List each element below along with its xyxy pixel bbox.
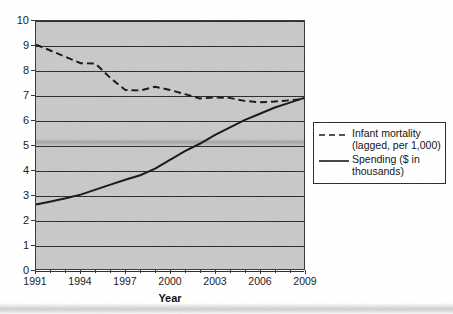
- x-axis-tick-mark: [35, 270, 36, 274]
- x-axis-tick-label: 2003: [198, 276, 232, 287]
- x-axis-tick-mark: [95, 270, 96, 273]
- series-plot: [36, 21, 304, 269]
- x-axis-tick-label: 2000: [153, 276, 187, 287]
- y-axis-tick-label: 2: [3, 215, 29, 226]
- y-axis-tick-label: 4: [3, 165, 29, 176]
- y-axis-tick-label: 7: [3, 90, 29, 101]
- series-line-spending: [36, 98, 304, 205]
- x-axis-tick-mark: [260, 270, 261, 274]
- y-axis-tick-label: 0: [3, 265, 29, 276]
- x-axis-tick-label: 1991: [18, 276, 52, 287]
- page-edge-smudge: [0, 303, 453, 314]
- x-axis-tick-mark: [245, 270, 246, 273]
- legend-item-spending: Spending ($ in thousands): [319, 154, 441, 177]
- x-axis-tick-mark: [305, 270, 306, 274]
- series-line-infant-mortality: [36, 45, 304, 103]
- x-axis-tick-label: 2009: [288, 276, 322, 287]
- legend-label-spending: Spending ($ in thousands): [352, 154, 420, 177]
- x-axis-tick-mark: [140, 270, 141, 273]
- legend-item-infant-mortality: Infant mortality (lagged, per 1,000): [319, 128, 441, 151]
- x-axis-tick-label: 1994: [63, 276, 97, 287]
- solid-line-icon: [319, 155, 349, 167]
- x-axis-title: Year: [35, 292, 305, 304]
- x-axis-tick-mark: [200, 270, 201, 273]
- y-axis-tick-label: 1: [3, 240, 29, 251]
- x-axis-tick-mark: [275, 270, 276, 273]
- x-axis-tick-label: 1997: [108, 276, 142, 287]
- x-axis-tick-label: 2006: [243, 276, 277, 287]
- x-axis-tick-mark: [170, 270, 171, 274]
- chart-legend: Infant mortality (lagged, per 1,000) Spe…: [313, 122, 446, 184]
- y-axis-tick-label: 5: [3, 140, 29, 151]
- x-axis-tick-mark: [230, 270, 231, 273]
- x-axis-tick-mark: [125, 270, 126, 274]
- x-axis-tick-mark: [110, 270, 111, 273]
- x-axis-tick-mark: [50, 270, 51, 273]
- x-axis-tick-mark: [185, 270, 186, 273]
- y-axis-tick-label: 6: [3, 115, 29, 126]
- y-axis-tick-label: 8: [3, 65, 29, 76]
- x-axis-tick-mark: [65, 270, 66, 273]
- dashed-line-icon: [319, 129, 349, 141]
- y-axis-tick-label: 3: [3, 190, 29, 201]
- legend-label-infant-mortality: Infant mortality (lagged, per 1,000): [352, 128, 441, 151]
- y-axis-tick-label: 10: [3, 15, 29, 26]
- x-axis-tick-mark: [290, 270, 291, 273]
- x-axis-tick-mark: [215, 270, 216, 274]
- x-axis-tick-mark: [80, 270, 81, 274]
- chart-figure: 109876543210 199119941997200020032006200…: [0, 0, 453, 314]
- plot-area: [35, 20, 305, 270]
- x-axis-tick-mark: [155, 270, 156, 273]
- y-axis-tick-label: 9: [3, 40, 29, 51]
